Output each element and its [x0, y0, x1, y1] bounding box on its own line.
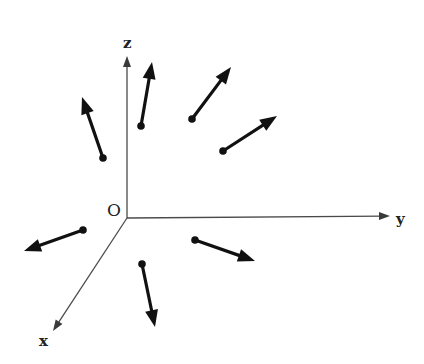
vector-shaft — [195, 240, 245, 258]
vector-tail-dot-icon — [79, 226, 87, 234]
vector-arrow — [137, 62, 155, 130]
x-axis-arrowhead-icon — [53, 320, 62, 331]
vector-field-diagram — [0, 0, 424, 364]
vector-shaft — [142, 264, 153, 317]
y-axis-arrowhead-icon — [379, 212, 390, 220]
coordinate-axes — [53, 56, 390, 331]
arrowhead-icon — [145, 309, 158, 327]
arrowhead-icon — [24, 239, 42, 251]
arrowhead-icon — [143, 62, 156, 80]
z-axis-label: z — [123, 36, 132, 51]
vector-arrow — [188, 67, 231, 123]
arrowhead-icon — [81, 97, 93, 115]
z-axis — [123, 56, 131, 218]
origin-label: O — [107, 202, 121, 219]
y-axis — [127, 212, 390, 220]
vector-shaft — [223, 122, 268, 151]
vector-shaft — [141, 72, 150, 126]
vector-arrow — [138, 260, 158, 327]
vector-arrow — [219, 116, 277, 155]
vector-tail-dot-icon — [138, 260, 146, 268]
vector-tail-dot-icon — [219, 147, 227, 155]
y-axis-line — [127, 216, 383, 218]
vector-shaft — [34, 230, 83, 248]
vector-shaft — [192, 75, 225, 119]
vector-arrows — [24, 62, 277, 327]
vector-arrow — [191, 236, 255, 261]
vector-tail-dot-icon — [99, 154, 107, 162]
vector-arrow — [81, 97, 106, 162]
vector-arrow — [24, 226, 87, 251]
z-axis-arrowhead-icon — [123, 56, 131, 67]
vector-tail-dot-icon — [137, 122, 145, 130]
arrowhead-icon — [259, 116, 277, 131]
arrowhead-icon — [237, 249, 255, 261]
vector-tail-dot-icon — [191, 236, 199, 244]
x-axis-label: x — [39, 334, 48, 349]
y-axis-label: y — [396, 212, 405, 227]
x-axis — [53, 218, 127, 331]
vector-shaft — [85, 107, 103, 158]
vector-tail-dot-icon — [188, 115, 196, 123]
